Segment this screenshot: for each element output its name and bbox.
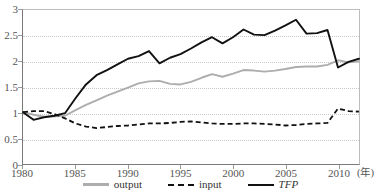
legend-label-input: input [199, 179, 222, 190]
legend-swatch-input-icon [168, 184, 194, 186]
legend-label-output: output [114, 179, 142, 190]
x-tick-mark-1985 [75, 165, 76, 169]
y-tick-label-1.5: 1.5 [0, 82, 18, 93]
legend: outputinputTFP [0, 179, 381, 190]
series-line-tfp [23, 20, 359, 120]
y-tick-label-2.5: 2.5 [0, 30, 18, 41]
x-tick-label-1995: 1995 [160, 168, 200, 179]
legend-swatch-output-icon [83, 183, 109, 186]
x-tick-mark-2010 [339, 165, 340, 169]
plot-area [22, 9, 360, 165]
x-tick-mark-2000 [233, 165, 234, 169]
x-tick-label-2010: 2010 [319, 168, 359, 179]
legend-item-output[interactable]: output [83, 179, 142, 190]
y-tick-label-1: 1 [0, 108, 18, 119]
x-tick-mark-2005 [286, 165, 287, 169]
legend-label-tfp: TFP [279, 179, 299, 190]
series-line-output [23, 60, 359, 116]
legend-swatch-tfp-icon [248, 184, 274, 186]
tfp-index-line-chart: 00.511.522.53 19801985199019952000200520… [0, 0, 381, 195]
x-tick-mark-1990 [128, 165, 129, 169]
y-tick-label-2: 2 [0, 56, 18, 67]
legend-item-input[interactable]: input [168, 179, 222, 190]
series-layer [23, 10, 359, 164]
x-tick-mark-1995 [180, 165, 181, 169]
x-axis-unit-label: (年) [357, 168, 374, 179]
legend-item-tfp[interactable]: TFP [248, 179, 299, 190]
x-tick-label-1985: 1985 [55, 168, 95, 179]
x-tick-label-1980: 1980 [2, 168, 42, 179]
y-tick-label-3: 3 [0, 4, 18, 15]
y-tick-label-0.5: 0.5 [0, 134, 18, 145]
x-tick-mark-1980 [22, 165, 23, 169]
